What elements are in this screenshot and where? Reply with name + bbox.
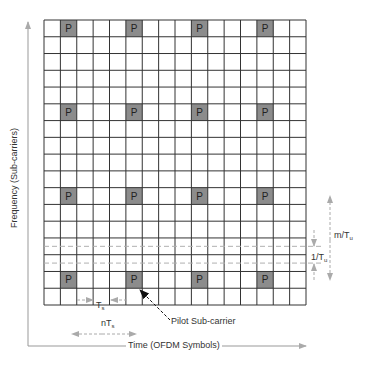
- pilot-symbol: P: [196, 23, 203, 34]
- ts-label: Ts: [96, 301, 105, 311]
- x-axis-label: Time (OFDM Symbols): [126, 341, 222, 350]
- pilot-symbol: P: [262, 107, 269, 118]
- pilot-symbol: P: [262, 274, 269, 285]
- pilot-symbol: P: [262, 23, 269, 34]
- pilot-symbol: P: [196, 274, 203, 285]
- pilot-symbol: P: [65, 107, 72, 118]
- pilot-symbol: P: [131, 107, 138, 118]
- pilot-symbol: P: [131, 23, 138, 34]
- pilot-subcarrier-label: Pilot Sub-carrier: [171, 317, 236, 326]
- pilot-symbol: P: [131, 191, 138, 202]
- time-frequency-grid: PPPPPPPPPPPPPPPP: [44, 20, 306, 305]
- pilot-spacing-label: m/Tu: [334, 231, 353, 241]
- subcarrier-spacing-label: 1/Tu: [311, 253, 327, 263]
- nts-label: nTs: [101, 319, 115, 329]
- pilot-symbol: P: [131, 274, 138, 285]
- pilot-symbol: P: [65, 191, 72, 202]
- pilot-symbol: P: [262, 191, 269, 202]
- pilot-symbol: P: [65, 23, 72, 34]
- pilot-symbol: P: [196, 191, 203, 202]
- pilot-symbol: P: [65, 274, 72, 285]
- pilot-symbol: P: [196, 107, 203, 118]
- y-axis-label: Frequency (Sub-carriers): [10, 126, 19, 230]
